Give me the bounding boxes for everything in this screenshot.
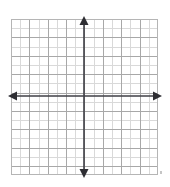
grid-border: [11, 19, 158, 175]
corner-artifact-mark: [160, 171, 162, 174]
coordinate-grid-figure: [0, 0, 170, 187]
grid-plot-area: [11, 19, 158, 175]
